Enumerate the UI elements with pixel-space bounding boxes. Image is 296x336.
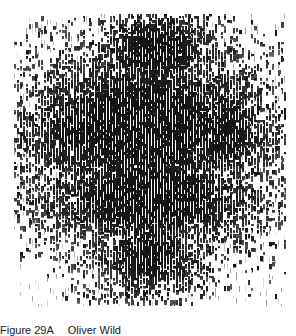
caption-label: Figure 29A xyxy=(0,324,54,336)
dot-density-scan-image xyxy=(14,14,286,306)
figure-caption: Figure 29AOliver Wild xyxy=(0,324,121,336)
scan-figure xyxy=(14,14,286,306)
caption-text: Oliver Wild xyxy=(68,324,121,336)
